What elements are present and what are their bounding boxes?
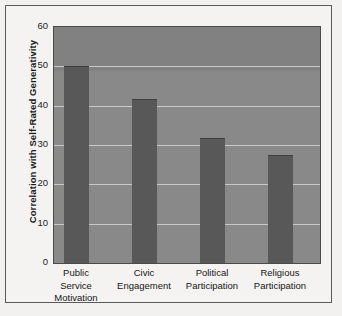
y-tick-label: 10 [22, 218, 48, 228]
y-tick-label: 60 [22, 21, 48, 31]
y-tick-label: 50 [22, 60, 48, 70]
figure-frame: Correlation with Self-Rated Generativity… [5, 5, 332, 303]
x-tick-label-religious-participation: Religious Participation [240, 267, 320, 292]
gridline-50 [54, 66, 320, 67]
x-tick-label-line: Religious [240, 267, 320, 280]
plot-area [53, 26, 321, 264]
bar-civic-engagement [132, 99, 157, 263]
bar-religious-participation [268, 155, 293, 263]
y-tick-label: 0 [22, 257, 48, 267]
figure: Correlation with Self-Rated Generativity… [0, 0, 342, 316]
gridline-30 [54, 145, 320, 146]
x-tick-label-line: Motivation [36, 292, 116, 305]
bar-public-service-motivation [64, 66, 89, 263]
y-tick-label: 30 [22, 139, 48, 149]
y-tick-label: 40 [22, 100, 48, 110]
x-tick-label-line: Participation [240, 280, 320, 293]
gridline-40 [54, 106, 320, 107]
x-axis-tick-labels: Public Service Motivation Civic Engageme… [53, 267, 321, 311]
bar-political-participation [200, 138, 225, 263]
y-axis-tick-labels: 60 50 40 30 20 10 0 [18, 26, 48, 264]
y-tick-label: 20 [22, 178, 48, 188]
